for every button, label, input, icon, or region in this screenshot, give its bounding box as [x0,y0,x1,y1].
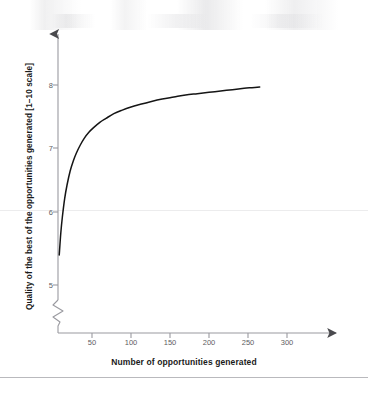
data-series-line [59,87,259,255]
y-tick-label-7: 7 [44,144,53,153]
y-axis-break-zigzag [53,300,63,333]
x-tick-marks [92,333,287,338]
y-tick-label-5: 5 [44,281,53,290]
chart-figure: 8 7 6 5 50 100 150 200 250 300 Number of… [0,0,368,397]
y-tick-label-6: 6 [44,208,53,217]
x-axis-title: Number of opportunities generated [0,357,368,367]
x-tick-label-100: 100 [125,338,138,347]
y-tick-marks [53,85,58,285]
x-tick-label-300: 300 [281,338,294,347]
x-tick-label-200: 200 [203,338,216,347]
y-tick-label-8: 8 [44,81,53,90]
y-axis-title: Quality of the best of the opportunities… [25,62,34,312]
plot-area [0,0,368,397]
x-tick-label-250: 250 [242,338,255,347]
x-tick-label-150: 150 [164,338,177,347]
x-tick-label-50: 50 [88,338,96,347]
